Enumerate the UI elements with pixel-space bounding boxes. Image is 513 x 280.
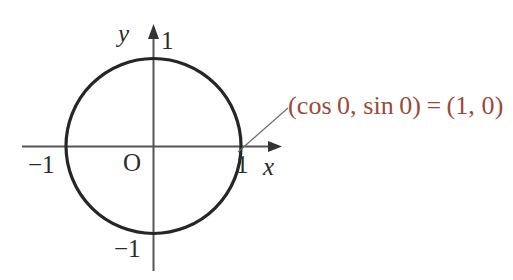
unit-circle-figure: y x O 1 −1 1 −1 (cos 0, sin 0) = (1, 0)	[0, 0, 513, 280]
annotation-leader-line	[238, 108, 288, 152]
tick-label-y-bottom: −1	[114, 236, 141, 261]
y-axis-arrowhead	[148, 24, 159, 39]
x-axis-label: x	[263, 154, 274, 179]
point-annotation-label: (cos 0, sin 0) = (1, 0)	[288, 93, 503, 119]
tick-label-x-right: 1	[236, 152, 249, 177]
origin-label: O	[123, 150, 141, 175]
tick-label-y-top: 1	[161, 28, 174, 53]
x-axis-arrowhead	[268, 141, 282, 152]
figure-canvas	[0, 0, 513, 280]
y-axis-label: y	[118, 21, 129, 46]
tick-label-x-left: −1	[28, 152, 55, 177]
